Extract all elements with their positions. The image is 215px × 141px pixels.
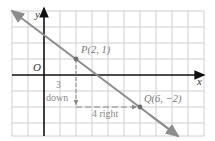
rise-number: 3: [56, 79, 61, 90]
x-axis-label: x: [196, 75, 202, 87]
point-p: [74, 57, 79, 62]
y-axis-label: y: [34, 8, 40, 20]
run-label: 4 right: [92, 108, 119, 119]
rise-word: down: [46, 92, 68, 103]
point-q: [138, 105, 143, 110]
origin-label: O: [33, 61, 41, 73]
coordinate-plane: y x O P(2, 1) Q(6, −2) 3 down 4 right: [0, 0, 215, 141]
line-pq-lower-arrow: [150, 115, 178, 136]
point-q-label: Q(6, −2): [144, 93, 182, 105]
point-p-label: P(2, 1): [80, 44, 111, 56]
